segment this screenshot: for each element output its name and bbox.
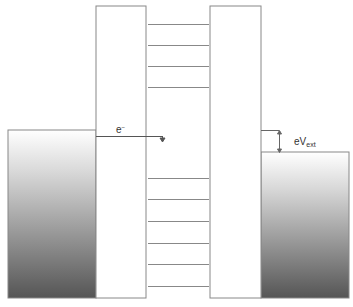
electron-label-superscript: − [122,124,126,130]
energy-levels-lower [148,179,209,287]
energy-levels-upper [148,25,209,88]
electron-label: e− [116,124,125,135]
left-barrier [96,6,146,298]
right-electrode [261,152,349,298]
diagram-canvas [0,0,353,307]
bias-indicator [261,131,282,153]
bias-label: eVext [294,137,316,148]
left-electrode [8,130,96,298]
bias-label-subscript: ext [306,141,315,148]
right-barrier [210,6,261,298]
bias-label-text: eV [294,136,306,147]
